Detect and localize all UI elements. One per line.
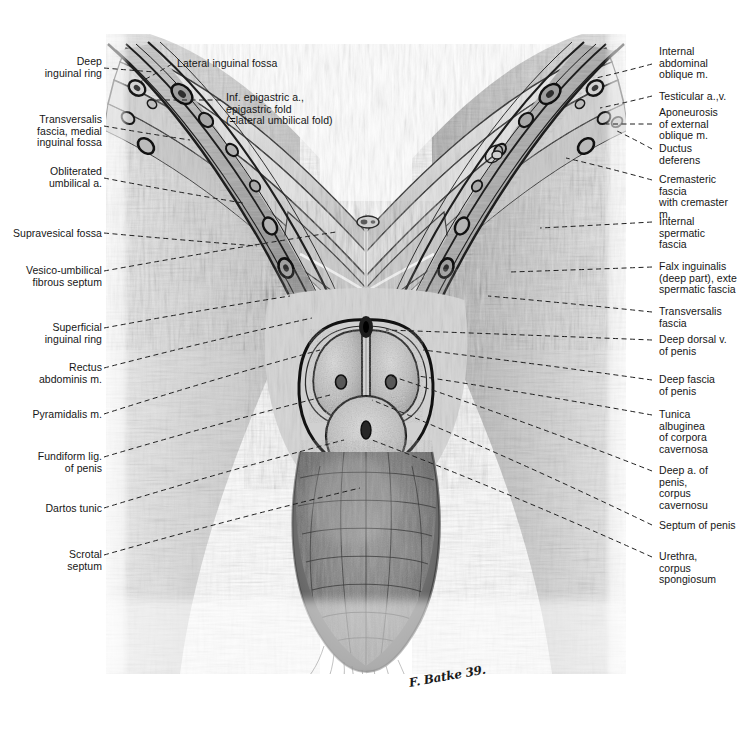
- deep-dorsal-vein: [359, 316, 373, 338]
- label-falx-inguinalis: Falx inguinalis (deep part), exte sperma…: [659, 261, 737, 296]
- label-ductus-deferens: Ductus deferens: [659, 143, 735, 166]
- label-cremasteric-fascia: Cremasteric fascia with cremaster m.: [659, 174, 739, 220]
- label-transversalis-fascia-medial: Transversalis fascia, medial inguinal fo…: [10, 114, 102, 149]
- label-transversalis-fascia: Transversalis fascia: [659, 306, 735, 329]
- label-deep-a-of-penis: Deep a. of penis, corpus cavernosu: [659, 465, 737, 511]
- label-vesico-umbilical-septum: Vesico-umbilical fibrous septum: [10, 265, 102, 288]
- label-internal-spermatic-fascia: Internal spermatic fascia: [659, 216, 735, 251]
- label-septum-of-penis: Septum of penis: [659, 520, 737, 532]
- label-deep-dorsal-v-of-penis: Deep dorsal v. of penis: [659, 334, 735, 357]
- label-dartos-tunic: Dartos tunic: [14, 503, 102, 515]
- label-fundiform-lig-of-penis: Fundiform lig. of penis: [16, 451, 102, 474]
- label-aponeurosis-external-oblique: Aponeurosis of external oblique m.: [659, 107, 735, 142]
- label-scrotal-septum: Scrotal septum: [16, 549, 102, 572]
- label-supravesical-fossa: Supravesical fossa: [6, 228, 102, 240]
- label-inf-epigastric-a: Inf. epigastric a., epigastric fold (=la…: [226, 92, 376, 127]
- label-obliterated-umbilical-a: Obliterated umbilical a.: [16, 166, 102, 189]
- label-pyramidalis-m: Pyramidalis m.: [14, 409, 102, 421]
- label-internal-abdominal-oblique-m: Internal abdominal oblique m.: [659, 46, 735, 81]
- label-tunica-albuginea: Tunica albuginea of corpora cavernosa: [659, 409, 737, 455]
- label-deep-fascia-of-penis: Deep fascia of penis: [659, 374, 735, 397]
- label-deep-inguinal-ring: Deep inguinal ring: [16, 56, 102, 79]
- label-lateral-inguinal-fossa: Lateral inguinal fossa: [177, 58, 327, 70]
- label-superficial-inguinal-ring: Superficial inguinal ring: [16, 322, 102, 345]
- label-testicular-a-v: Testicular a.,v.: [659, 91, 735, 103]
- label-urethra-corpus-spongiosum: Urethra, corpus spongiosum: [659, 551, 735, 586]
- median-umbilical-vessel: [357, 216, 379, 228]
- label-rectus-abdominis-m: Rectus abdominis m.: [16, 362, 102, 385]
